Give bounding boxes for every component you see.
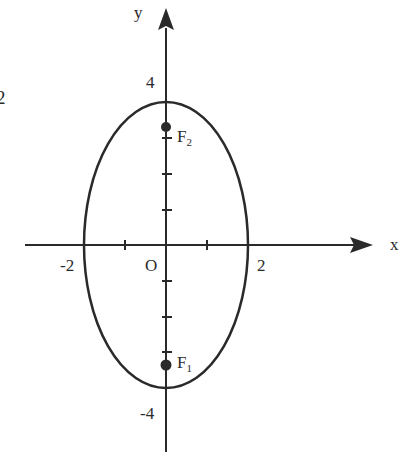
- x-tick-label-right: 2: [257, 257, 266, 274]
- y-tick-label-bottom: -4: [140, 405, 154, 422]
- focus-f1-subscript: 1: [186, 362, 192, 374]
- focus-f2-label: F2: [177, 128, 192, 145]
- edge-fragment-label: 2: [0, 88, 6, 107]
- focus-f1-dot: [161, 360, 172, 371]
- x-axis-label: x: [390, 236, 399, 253]
- diagram-canvas: [0, 0, 419, 457]
- y-axis-label: y: [134, 4, 143, 21]
- x-tick-label-left: -2: [60, 257, 74, 274]
- origin-label: O: [145, 257, 157, 274]
- y-tick-label-top: 4: [146, 74, 155, 91]
- y-axis-arrow-icon: [158, 8, 174, 30]
- ellipse-diagram: 2 y x 4 -4 -2 2 O F2 F1: [0, 0, 419, 457]
- focus-f2-subscript: 2: [186, 136, 192, 148]
- focus-f1-label: F1: [177, 354, 192, 371]
- focus-f2-dot: [161, 122, 171, 132]
